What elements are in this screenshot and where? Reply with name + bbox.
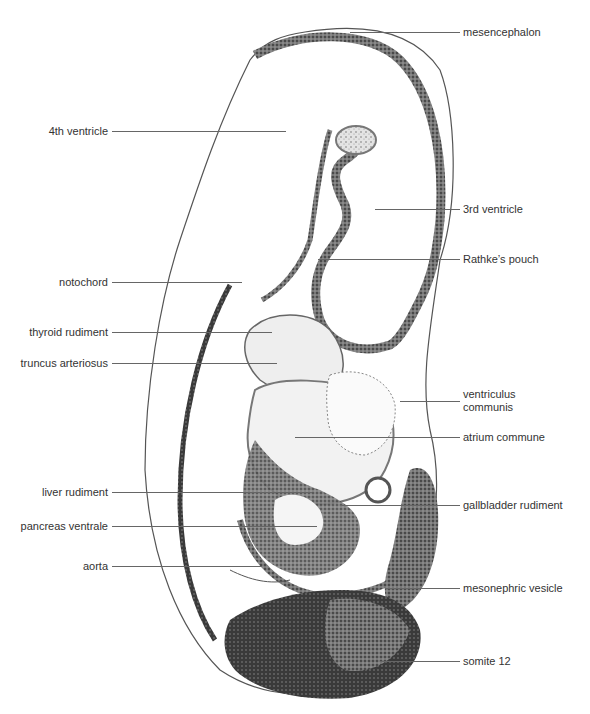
leader-line (112, 566, 262, 567)
label-pancreas-ventrale: pancreas ventrale (21, 520, 108, 533)
leader-line (112, 492, 312, 493)
leader-line (380, 661, 460, 662)
leader-line (112, 526, 317, 527)
label-rathkes-pouch: Rathke’s pouch (463, 253, 539, 266)
label-mesencephalon: mesencephalon (463, 26, 541, 39)
figure-canvas: 4th ventricle notochord thyroid rudiment… (0, 0, 590, 714)
leader-line (375, 209, 460, 210)
label-somite-12: somite 12 (463, 655, 511, 668)
label-notochord: notochord (59, 276, 108, 289)
leader-line (340, 505, 460, 506)
leader-line (350, 32, 460, 33)
label-liver-rudiment: liver rudiment (42, 486, 108, 499)
leader-line (112, 363, 277, 364)
leader-line (385, 588, 460, 589)
label-thyroid-rudiment: thyroid rudiment (29, 326, 108, 339)
leader-line (112, 332, 272, 333)
label-mesonephric-vesicle: mesonephric vesicle (463, 582, 563, 595)
label-aorta: aorta (83, 560, 108, 573)
leader-line (112, 282, 242, 283)
label-truncus-arteriosus: truncus arteriosus (21, 357, 108, 370)
leader-line (400, 401, 460, 402)
leader-line (112, 131, 286, 132)
label-ventriculus-communis-line1: ventriculus (463, 388, 516, 401)
leader-line (295, 437, 460, 438)
label-ventriculus-communis-line2: communis (463, 401, 513, 414)
label-gallbladder-rudiment: gallbladder rudiment (463, 499, 563, 512)
label-3rd-ventricle: 3rd ventricle (463, 203, 523, 216)
leader-line (318, 259, 460, 260)
label-atrium-commune: atrium commune (463, 431, 545, 444)
label-4th-ventricle: 4th ventricle (49, 125, 108, 138)
